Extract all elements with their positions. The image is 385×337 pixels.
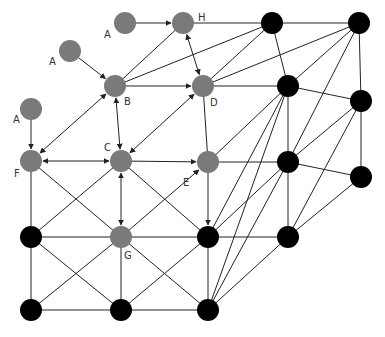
node-label-f: F (14, 168, 20, 179)
edge-f-b-arrow (40, 94, 106, 153)
node-label-b: B (124, 96, 131, 107)
edge-d-k1 (203, 23, 272, 86)
node-label-a1: A (104, 29, 111, 40)
node-label-a3: A (13, 114, 20, 125)
edge-k4-k5 (288, 101, 361, 162)
inactive-node-k4 (350, 90, 372, 112)
edge-k3-k12 (208, 86, 288, 310)
inactive-node-k5 (277, 151, 299, 173)
active-node-a2 (59, 40, 81, 62)
active-node-f (20, 150, 42, 172)
active-node-h (172, 12, 194, 34)
inactive-node-k10 (20, 299, 42, 321)
inactive-node-k9 (277, 226, 299, 248)
active-node-enode (197, 151, 219, 173)
edge-k5-k8 (208, 162, 288, 237)
edge-k5-k12 (208, 162, 288, 310)
inactive-node-k6 (350, 166, 372, 188)
inactive-node-k7 (20, 226, 42, 248)
edge-k3-enode (208, 86, 288, 162)
inactive-node-k11 (110, 299, 132, 321)
active-node-b (104, 75, 126, 97)
inactive-node-k12 (197, 299, 219, 321)
edge-k5-k6 (288, 162, 361, 177)
active-node-d (192, 75, 214, 97)
edge-b-k1 (115, 23, 272, 86)
active-node-c (110, 150, 132, 172)
edge-d-c-arrow (130, 94, 194, 153)
inactive-node-k3 (277, 75, 299, 97)
edge-c-enode-arrow (121, 161, 196, 162)
inactive-node-k8 (197, 226, 219, 248)
edge-k2-k5 (288, 23, 359, 162)
edge-k2-k3 (288, 23, 359, 86)
edge-d-k2 (203, 23, 359, 86)
edge-k6-k9 (288, 177, 361, 237)
edge-k3-k4 (288, 86, 361, 101)
node-label-d: D (210, 97, 218, 108)
label-layer: AAAHBDFCGE (13, 12, 218, 261)
active-node-a3 (20, 98, 42, 120)
node-label-a2: A (49, 56, 56, 67)
active-node-a1 (114, 12, 136, 34)
network-diagram: AAAHBDFCGE (0, 0, 385, 337)
edge-k9-k12 (208, 237, 288, 310)
inactive-node-k1 (261, 12, 283, 34)
node-label-h: H (198, 12, 206, 23)
active-node-g (110, 226, 132, 248)
node-label-g: G (124, 250, 132, 261)
edge-layer (31, 23, 361, 310)
node-label-c: C (104, 142, 111, 153)
inactive-node-k2 (348, 12, 370, 34)
edge-d-enode (203, 86, 208, 162)
edge-k2-k4 (359, 23, 361, 101)
edge-label-e: E (183, 177, 189, 188)
edge-c-b-arrow (116, 98, 120, 149)
